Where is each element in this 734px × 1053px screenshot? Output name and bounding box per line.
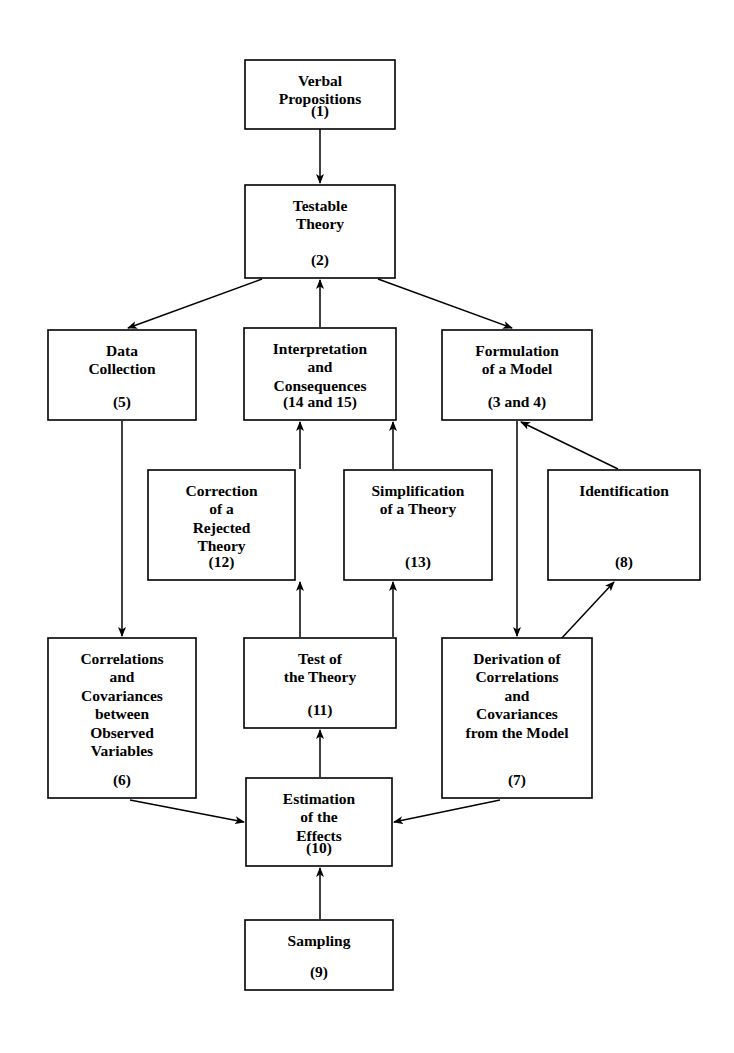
node-label-line: between bbox=[95, 705, 150, 722]
node-label-line: Correlations bbox=[80, 650, 163, 667]
edge-derivation-to-identification bbox=[560, 582, 614, 640]
node-label-line: of a Theory bbox=[380, 500, 457, 517]
node-label-line: Estimation bbox=[283, 790, 356, 807]
node-label-line: Collection bbox=[88, 360, 156, 377]
node-index-simplification-of-a-theory: (13) bbox=[405, 553, 431, 571]
node-label-line: and bbox=[110, 668, 135, 685]
node-index-correction-of-a-rejected-theory: (12) bbox=[209, 553, 235, 571]
node-label-line: Test of bbox=[298, 650, 343, 667]
edge-testable-to-data bbox=[128, 279, 262, 328]
node-index-data-collection: (5) bbox=[113, 393, 131, 411]
nodes-layer: VerbalPropositions(1)TestableTheory(2)Da… bbox=[48, 60, 700, 990]
node-estimation-of-the-effects[interactable]: Estimationof theEffects(10) bbox=[246, 778, 392, 866]
node-label-line: and bbox=[505, 687, 530, 704]
edge-identification-to-formulation bbox=[521, 422, 618, 469]
node-verbal-propositions[interactable]: VerbalPropositions(1) bbox=[245, 60, 395, 129]
node-label-line: Testable bbox=[293, 197, 348, 214]
node-index-correlations-covariances-observed: (6) bbox=[113, 771, 131, 789]
node-label-line: Data bbox=[106, 342, 138, 359]
node-index-formulation-of-a-model: (3 and 4) bbox=[488, 393, 547, 411]
node-identification[interactable]: Identification(8) bbox=[548, 470, 700, 580]
node-formulation-of-a-model[interactable]: Formulationof a Model(3 and 4) bbox=[442, 330, 592, 420]
node-simplification-of-a-theory[interactable]: Simplificationof a Theory(13) bbox=[344, 470, 492, 580]
node-label-line: Rejected bbox=[193, 519, 251, 536]
edge-correlations-to-estimation bbox=[130, 800, 244, 822]
node-label-line: and bbox=[308, 358, 333, 375]
node-label-line: of a Model bbox=[482, 360, 553, 377]
node-label-line: Derivation of bbox=[473, 650, 561, 667]
node-label-line: Identification bbox=[579, 482, 669, 499]
node-label-line: Observed bbox=[90, 724, 154, 741]
node-label-line: Consequences bbox=[273, 377, 366, 394]
node-index-estimation-of-the-effects: (10) bbox=[306, 839, 332, 857]
node-index-testable-theory: (2) bbox=[311, 251, 329, 269]
node-index-verbal-propositions: (1) bbox=[311, 102, 329, 120]
node-label-line: Correction bbox=[185, 482, 257, 499]
node-sampling[interactable]: Sampling(9) bbox=[245, 920, 393, 990]
node-derivation-from-the-model[interactable]: Derivation ofCorrelationsandCovariancesf… bbox=[442, 638, 592, 798]
node-label-line: of a bbox=[209, 500, 234, 517]
node-index-interpretation-and-consequences: (14 and 15) bbox=[283, 393, 357, 411]
node-data-collection[interactable]: DataCollection(5) bbox=[48, 330, 196, 420]
node-index-sampling: (9) bbox=[310, 963, 328, 981]
edge-testable-to-formulation bbox=[378, 279, 512, 328]
node-testable-theory[interactable]: TestableTheory(2) bbox=[245, 185, 395, 278]
node-test-of-the-theory[interactable]: Test ofthe Theory(11) bbox=[244, 638, 396, 728]
node-index-test-of-the-theory: (11) bbox=[308, 701, 333, 719]
node-label-line: the Theory bbox=[284, 668, 357, 685]
node-correlations-covariances-observed[interactable]: CorrelationsandCovariancesbetweenObserve… bbox=[48, 638, 196, 798]
node-interpretation-and-consequences[interactable]: InterpretationandConsequences(14 and 15) bbox=[244, 328, 396, 420]
node-label-line: Verbal bbox=[298, 72, 343, 89]
edge-derivation-to-estimation bbox=[394, 800, 500, 822]
node-label-line: Covariances bbox=[81, 687, 163, 704]
node-index-identification: (8) bbox=[615, 553, 633, 571]
node-label-line: Correlations bbox=[475, 668, 558, 685]
node-label-line: of the bbox=[300, 808, 338, 825]
node-index-derivation-from-the-model: (7) bbox=[508, 771, 526, 789]
node-label-line: from the Model bbox=[465, 724, 569, 741]
node-label-line: Variables bbox=[91, 742, 153, 759]
node-label-line: Theory bbox=[296, 215, 344, 232]
node-label-line: Simplification bbox=[371, 482, 464, 499]
flowchart-canvas: VerbalPropositions(1)TestableTheory(2)Da… bbox=[0, 0, 734, 1053]
node-label-line: Interpretation bbox=[273, 340, 368, 357]
node-correction-of-a-rejected-theory[interactable]: Correctionof aRejectedTheory(12) bbox=[148, 470, 295, 580]
diagram-page: VerbalPropositions(1)TestableTheory(2)Da… bbox=[0, 0, 734, 1053]
node-label-line: Covariances bbox=[476, 705, 558, 722]
node-label-line: Sampling bbox=[288, 932, 351, 949]
node-label-line: Formulation bbox=[475, 342, 559, 359]
